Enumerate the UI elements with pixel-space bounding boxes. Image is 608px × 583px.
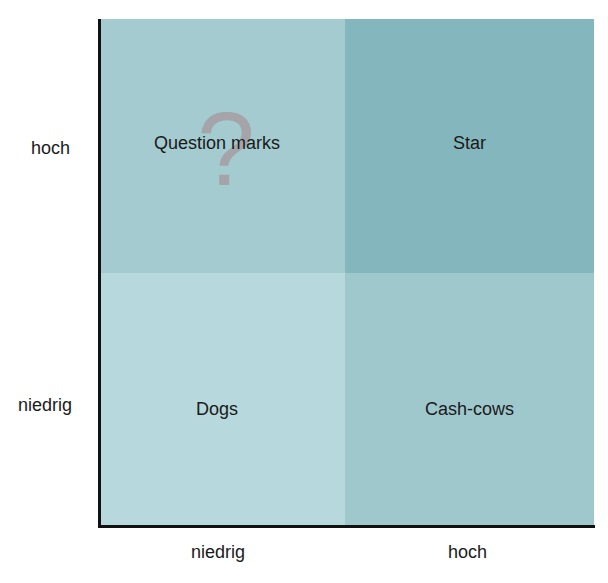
quadrant-label-star: Star [453,133,486,154]
y-axis-label-high: hoch [31,138,70,159]
portfolio-matrix: ? Question marks Star Dogs Cash-cows [101,19,594,525]
y-axis-label-low: niedrig [18,395,72,416]
quadrant-label-question-marks: Question marks [154,133,280,154]
x-axis-line [98,525,595,528]
quadrant-question-marks: ? Question marks [101,19,345,273]
x-axis-label-high: hoch [448,542,487,563]
quadrant-cash-cows: Cash-cows [345,273,594,525]
y-axis-line [98,19,101,528]
x-axis-label-low: niedrig [191,542,245,563]
quadrant-label-dogs: Dogs [196,399,238,420]
quadrant-label-cash-cows: Cash-cows [425,399,514,420]
quadrant-dogs: Dogs [101,273,345,525]
quadrant-star: Star [345,19,594,273]
